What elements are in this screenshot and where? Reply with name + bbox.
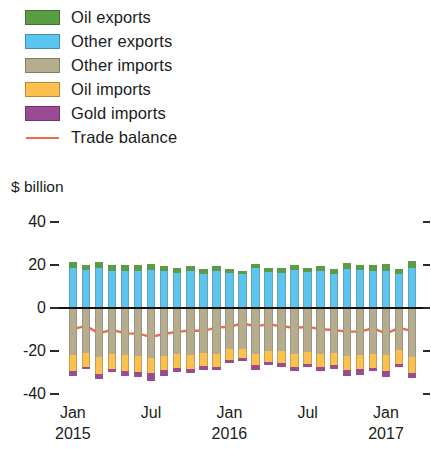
bar-segment bbox=[356, 369, 365, 375]
x-axis-month-label: Jan bbox=[373, 404, 399, 422]
bar-segment bbox=[382, 308, 391, 355]
bar-segment bbox=[290, 265, 299, 270]
bar-segment bbox=[343, 308, 352, 356]
bar-segment bbox=[108, 308, 117, 354]
y-axis-tick-label: 40 bbox=[0, 213, 46, 231]
zero-axis-line bbox=[59, 307, 423, 310]
bar-segment bbox=[408, 308, 417, 357]
bar-segment bbox=[69, 262, 78, 268]
chart-bar bbox=[108, 0, 117, 449]
bar-segment bbox=[343, 263, 352, 269]
chart-bar bbox=[147, 0, 156, 449]
bar-segment bbox=[369, 368, 378, 371]
bar-segment bbox=[238, 349, 247, 358]
chart-bar bbox=[199, 0, 208, 449]
bar-segment bbox=[225, 349, 234, 359]
x-axis-month-label: Jan bbox=[216, 404, 242, 422]
chart-bar bbox=[330, 0, 339, 449]
chart-bar bbox=[225, 0, 234, 449]
bar-segment bbox=[277, 351, 286, 363]
chart-bar bbox=[238, 0, 247, 449]
bar-segment bbox=[290, 308, 299, 354]
y-axis-tick-label: 20 bbox=[0, 256, 46, 274]
bar-segment bbox=[160, 370, 169, 375]
chart-bar bbox=[290, 0, 299, 449]
bar-segment bbox=[369, 354, 378, 368]
bar-segment bbox=[108, 369, 117, 372]
chart-bar bbox=[134, 0, 143, 449]
bar-segment bbox=[212, 271, 221, 308]
bar-segment bbox=[290, 367, 299, 371]
bar-segment bbox=[356, 308, 365, 355]
bar-segment bbox=[251, 268, 260, 308]
bar-segment bbox=[69, 308, 78, 355]
bar-segment bbox=[95, 308, 104, 357]
x-axis-year-label: 2016 bbox=[212, 425, 248, 443]
x-axis-month-label: Jan bbox=[60, 404, 86, 422]
bar-segment bbox=[395, 364, 404, 367]
y-axis-tick bbox=[50, 393, 59, 395]
bar-segment bbox=[212, 266, 221, 271]
bar-segment bbox=[160, 271, 169, 308]
chart-bar bbox=[160, 0, 169, 449]
bar-segment bbox=[225, 273, 234, 308]
bar-segment bbox=[395, 308, 404, 350]
bar-segment bbox=[277, 273, 286, 308]
bar-segment bbox=[277, 308, 286, 351]
bar-segment bbox=[356, 355, 365, 369]
bar-segment bbox=[134, 308, 143, 356]
x-axis-month-label: Jul bbox=[141, 404, 161, 422]
bar-segment bbox=[290, 270, 299, 308]
x-axis-month-label: Jul bbox=[297, 404, 317, 422]
bar-segment bbox=[251, 354, 260, 365]
bar-segment bbox=[369, 271, 378, 308]
bar-segment bbox=[238, 358, 247, 361]
bar-segment bbox=[173, 268, 182, 273]
y-axis-tick bbox=[50, 307, 59, 309]
bar-segment bbox=[343, 356, 352, 370]
right-axis-tick bbox=[423, 350, 430, 352]
bar-segment bbox=[147, 264, 156, 270]
bar-segment bbox=[395, 274, 404, 308]
bar-segment bbox=[95, 262, 104, 268]
plot-area: 40200-20-40Jan2015JulJan2016JulJan2017 bbox=[0, 0, 431, 449]
chart-bar bbox=[173, 0, 182, 449]
bar-segment bbox=[173, 308, 182, 354]
bar-segment bbox=[212, 367, 221, 370]
bar-segment bbox=[238, 271, 247, 274]
chart-bar bbox=[82, 0, 91, 449]
chart-bar bbox=[316, 0, 325, 449]
bar-segment bbox=[82, 265, 91, 270]
bar-segment bbox=[108, 265, 117, 271]
bar-segment bbox=[199, 274, 208, 308]
bar-segment bbox=[147, 308, 156, 358]
bar-segment bbox=[408, 268, 417, 308]
bar-segment bbox=[369, 265, 378, 271]
bar-segment bbox=[290, 354, 299, 367]
bar-segment bbox=[121, 265, 130, 271]
bar-segment bbox=[69, 268, 78, 308]
bar-segment bbox=[382, 371, 391, 377]
bar-segment bbox=[134, 372, 143, 376]
bar-segment bbox=[277, 268, 286, 273]
bar-segment bbox=[316, 271, 325, 308]
chart-bar bbox=[264, 0, 273, 449]
bar-segment bbox=[343, 370, 352, 376]
chart-bar bbox=[121, 0, 130, 449]
bar-segment bbox=[225, 308, 234, 349]
bar-segment bbox=[95, 357, 104, 373]
bar-segment bbox=[212, 354, 221, 366]
x-axis-year-label: 2017 bbox=[368, 425, 404, 443]
bar-segment bbox=[82, 308, 91, 353]
bar-segment bbox=[160, 356, 169, 370]
bar-segment bbox=[356, 270, 365, 308]
bar-segment bbox=[82, 353, 91, 366]
y-axis-tick bbox=[50, 350, 59, 352]
chart-bar bbox=[251, 0, 260, 449]
bar-segment bbox=[408, 357, 417, 373]
bar-segment bbox=[316, 308, 325, 354]
right-axis-tick bbox=[423, 221, 430, 223]
bar-segment bbox=[212, 308, 221, 354]
bar-segment bbox=[160, 266, 169, 271]
bar-segment bbox=[251, 308, 260, 354]
